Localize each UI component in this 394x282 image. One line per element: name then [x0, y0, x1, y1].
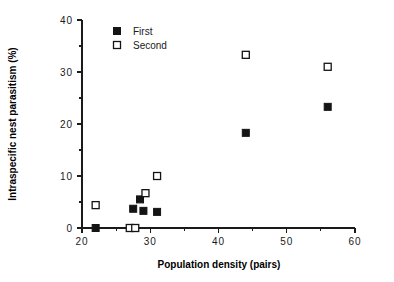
legend-marker-second [114, 42, 121, 49]
legend-marker-first [114, 28, 121, 35]
y-tick-label: 0 [67, 223, 73, 234]
data-point [154, 208, 161, 215]
data-point [242, 51, 249, 58]
y-tick-label: 40 [60, 15, 73, 26]
legend-label-first: First [133, 26, 153, 37]
x-tick-label: 50 [280, 236, 293, 247]
data-point [132, 225, 139, 232]
legend-label-second: Second [133, 40, 167, 51]
y-axis-title: Intraspecific nest parasitism (%) [7, 47, 18, 200]
x-tick-label: 60 [349, 236, 362, 247]
y-tick-label: 30 [60, 67, 73, 78]
y-tick-label: 20 [60, 119, 73, 130]
x-tick-label: 30 [144, 236, 157, 247]
data-point [92, 202, 99, 209]
data-point [140, 207, 147, 214]
data-point [154, 173, 161, 180]
chart-background [0, 0, 394, 282]
x-tick-label: 20 [76, 236, 89, 247]
data-point [324, 63, 331, 70]
x-tick-label: 40 [212, 236, 225, 247]
y-tick-label: 10 [60, 171, 73, 182]
data-point [130, 205, 137, 212]
data-point [92, 225, 99, 232]
data-point [242, 129, 249, 136]
data-point [324, 103, 331, 110]
x-axis-title: Population density (pairs) [158, 259, 281, 270]
scatter-plot-figure: 010203040 2030405060 FirstSecond Populat… [0, 0, 394, 282]
data-point [142, 190, 149, 197]
chart-canvas: 010203040 2030405060 FirstSecond Populat… [0, 0, 394, 282]
